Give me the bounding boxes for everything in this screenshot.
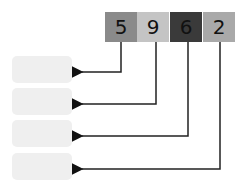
connector-arrows: [0, 0, 245, 181]
